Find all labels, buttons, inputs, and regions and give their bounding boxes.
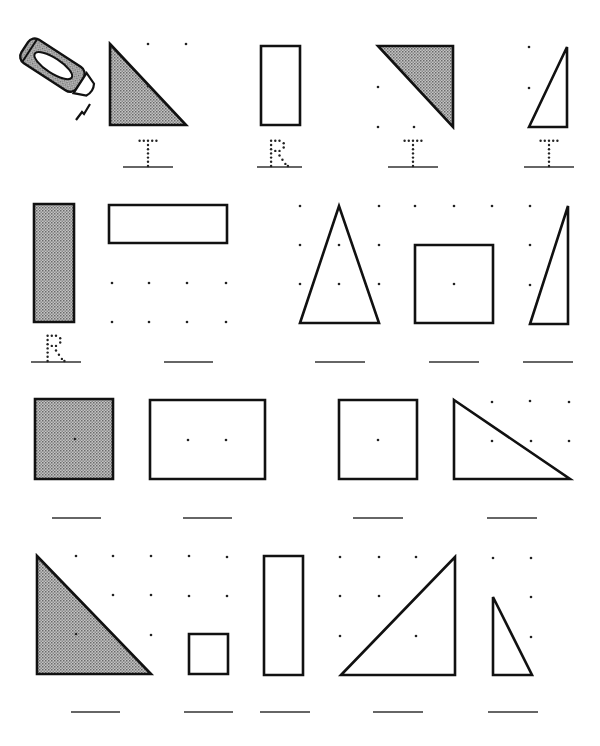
dotted-letter-T [138,140,157,168]
outline-triangle-r2-5[interactable] [530,206,568,324]
outline-rectangle-r2-2[interactable] [109,205,227,243]
grid-dot [529,400,532,403]
shaded-triangle-r4-1[interactable] [37,556,151,674]
grid-dot [299,244,302,247]
shaded-rectangle-r2-1[interactable] [34,204,74,322]
crayon-mark-icon [76,104,90,120]
outline-triangle-r3-4[interactable] [454,400,570,479]
grid-dot [453,283,456,286]
grid-dot [378,283,381,286]
grid-dot [529,244,532,247]
outline-triangle-r2-3[interactable] [300,206,379,323]
outline-rectangle-r4-2[interactable] [189,634,228,674]
grid-dot [187,439,190,442]
grid-dot [150,594,153,597]
grid-dot [112,594,115,597]
grid-dot [299,283,302,286]
outline-rectangle-r3-2[interactable] [150,400,265,479]
grid-dot [529,284,532,287]
grid-dot [415,635,418,638]
grid-dot [377,86,380,89]
grid-dot [185,43,188,46]
grid-dot [530,557,533,560]
grid-dot [186,321,189,324]
dotted-letter-R [270,140,289,168]
grid-dot [339,595,342,598]
dotted-letter-R [46,335,65,363]
grid-dot [491,401,494,404]
grid-dot [568,401,571,404]
grid-dot [378,205,381,208]
crayon-icon [17,35,99,102]
grid-dot [148,282,151,285]
grid-dot [338,244,341,247]
grid-dot [453,205,456,208]
grid-dot [413,126,416,129]
shaded-triangle-r1-3[interactable] [378,46,453,127]
grid-dot [530,440,533,443]
shapes-layer [34,44,570,675]
grid-dot [528,87,531,90]
grid-dot [111,282,114,285]
shaded-triangle-r1-1[interactable] [110,44,186,125]
grid-dot [530,636,533,639]
grid-dot [491,205,494,208]
grid-dot [147,43,150,46]
grid-dot [529,205,532,208]
outline-triangle-r4-5[interactable] [493,597,532,675]
geometry-worksheet [0,0,600,746]
grid-dot [225,439,228,442]
grid-dot [568,440,571,443]
outline-triangle-r1-4[interactable] [529,47,567,127]
grid-dot [112,555,115,558]
outline-rectangle-r1-2[interactable] [261,46,300,125]
grid-dot [150,555,153,558]
grid-dot [225,321,228,324]
grid-dots-layer [74,43,571,639]
grid-dot [415,556,418,559]
grid-dot [338,283,341,286]
grid-dot [226,595,229,598]
grid-dot [377,439,380,442]
grid-dot [492,557,495,560]
grid-dot [528,46,531,49]
grid-dot [75,633,78,636]
grid-dot [299,205,302,208]
grid-dot [188,595,191,598]
grid-dot [378,244,381,247]
dotted-letter-labels-layer [46,140,558,363]
grid-dot [530,596,533,599]
grid-dot [188,555,191,558]
grid-dot [75,555,78,558]
grid-dot [339,635,342,638]
dotted-letter-T [539,140,558,168]
grid-dot [150,634,153,637]
grid-dot [339,556,342,559]
grid-dot [378,556,381,559]
grid-dot [225,282,228,285]
grid-dot [377,126,380,129]
grid-dot [414,205,417,208]
grid-dot [186,282,189,285]
grid-dot [226,556,229,559]
outline-triangle-r4-4[interactable] [341,557,455,675]
grid-dot [111,321,114,324]
grid-dot [148,321,151,324]
grid-dot [491,440,494,443]
grid-dot [74,438,77,441]
dotted-letter-T [403,140,422,168]
outline-rectangle-r4-3[interactable] [264,556,303,675]
grid-dot [378,595,381,598]
grid-dot [147,85,150,88]
